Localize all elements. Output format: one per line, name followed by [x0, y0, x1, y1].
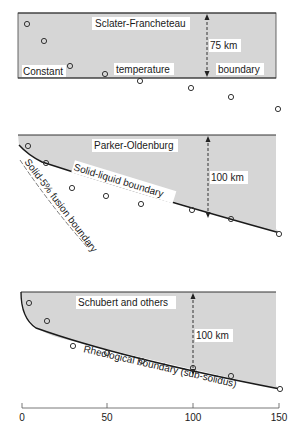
arrow-down-icon [206, 212, 211, 218]
x-axis: 0 50 100 150 [19, 403, 288, 423]
tick-label-0: 0 [19, 412, 25, 423]
panel-title: Parker-Oldenburg [94, 140, 173, 151]
boundary-word-temperature: temperature [116, 64, 170, 75]
thickness-label: 75 km [210, 40, 237, 51]
panel-sclater-francheteau: Sclater-Francheteau 75 km Constant tempe… [18, 13, 281, 112]
panel-title: Schubert and others [78, 297, 168, 308]
boundary-word-boundary: boundary [218, 64, 260, 75]
panel-title: Sclater-Francheteau [95, 18, 186, 29]
boundary-word-constant: Constant [23, 66, 63, 77]
tick-label-50: 50 [101, 412, 113, 423]
tick-label-100: 100 [185, 412, 202, 423]
thickness-label: 100 km [211, 172, 244, 183]
thickness-label: 100 km [196, 330, 229, 341]
panel-schubert-and-others: Schubert and others 100 km Rheological b… [21, 292, 283, 392]
panel-parker-oldenburg: Parker-Oldenburg 100 km Solid-liquid bou… [18, 135, 282, 254]
tick-label-150: 150 [271, 412, 288, 423]
lithosphere-models-diagram: Sclater-Francheteau 75 km Constant tempe… [0, 0, 297, 424]
